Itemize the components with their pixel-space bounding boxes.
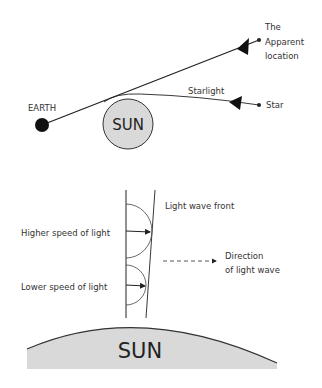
sun-label-bottom: SUN [118, 339, 162, 363]
lower-speed-label: Lower speed of light [21, 282, 108, 292]
apparent-location-line-1: The [264, 22, 281, 32]
star-dot [257, 103, 261, 107]
starlight-label: Starlight [188, 86, 225, 96]
gravitational-lensing-diagram: SUN EARTH Starlight Star The Apparent lo… [0, 0, 322, 388]
apparent-arrowhead-icon [237, 38, 249, 55]
top-diagram: SUN EARTH Starlight Star The Apparent lo… [28, 22, 305, 149]
star-label: Star [266, 100, 284, 110]
starlight-arrowhead-icon [229, 96, 242, 110]
higher-speed-arrow [126, 231, 150, 232]
apparent-location-line-2: Apparent [265, 37, 305, 47]
apparent-location-dot [257, 38, 261, 42]
sun-label-top: SUN [112, 116, 144, 134]
earth-label: EARTH [28, 103, 56, 113]
apparent-location-line-3: location [265, 51, 299, 61]
earth-circle [35, 118, 49, 132]
direction-line-1: Direction [225, 251, 263, 261]
wave-front-line [146, 190, 155, 318]
higher-speed-label: Higher speed of light [21, 228, 111, 238]
bottom-diagram: Light wave front Higher speed of light L… [21, 190, 280, 369]
wave-front-label: Light wave front [165, 201, 235, 211]
direction-line-2: of light wave [225, 265, 280, 275]
lower-speed-arrow [126, 285, 145, 286]
